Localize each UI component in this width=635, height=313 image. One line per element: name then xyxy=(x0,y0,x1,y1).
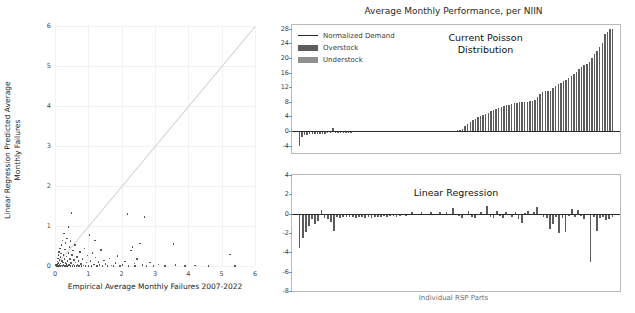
scatter-point xyxy=(142,264,144,266)
scatter-point xyxy=(102,265,104,267)
bar xyxy=(527,102,528,131)
bar xyxy=(589,62,590,131)
scatter-point xyxy=(70,262,72,264)
scatter-point xyxy=(130,250,132,252)
bar xyxy=(612,29,613,131)
scatter-point xyxy=(88,265,90,267)
legend-item-overstock[interactable]: Overstock xyxy=(298,42,395,53)
scatter-y-tick: 3 xyxy=(37,142,51,150)
bar xyxy=(508,105,509,131)
bar xyxy=(472,120,473,131)
scatter-point xyxy=(74,244,76,246)
bar xyxy=(568,78,569,131)
tick-mark xyxy=(289,272,292,273)
bar xyxy=(586,64,587,131)
legend-item-normalized-demand[interactable]: Normalized Demand xyxy=(298,30,395,41)
bar xyxy=(524,102,525,131)
scatter-point xyxy=(86,262,88,264)
scatter-point xyxy=(103,260,105,262)
scatter-point xyxy=(73,259,75,261)
bar xyxy=(330,214,332,222)
scatter-point xyxy=(184,265,186,267)
bar xyxy=(545,91,546,131)
scatter-point xyxy=(64,249,66,251)
legend-label: Understock xyxy=(323,56,363,64)
bar xyxy=(534,100,535,131)
bar xyxy=(552,214,554,225)
tick-mark xyxy=(289,252,292,253)
scatter-point xyxy=(132,246,134,248)
bar xyxy=(470,122,471,131)
bar xyxy=(511,104,512,131)
bar xyxy=(475,119,476,131)
scatter-point xyxy=(164,265,166,267)
bar xyxy=(308,214,310,226)
scatter-point xyxy=(208,265,210,267)
normalized-demand-line xyxy=(292,214,620,215)
top-bar-panel[interactable]: Normalized Demand Overstock Understock C… xyxy=(291,24,621,154)
scatter-plot-area[interactable] xyxy=(55,26,255,266)
bar xyxy=(560,83,561,131)
scatter-point xyxy=(89,234,91,236)
bar xyxy=(519,102,520,131)
legend-label: Normalized Demand xyxy=(323,32,395,40)
legend: Normalized Demand Overstock Understock xyxy=(298,30,395,66)
scatter-point xyxy=(61,244,63,246)
scatter-point xyxy=(119,265,121,267)
scatter-point xyxy=(78,260,80,262)
tick-mark xyxy=(289,214,292,215)
tick-mark xyxy=(289,146,292,147)
scatter-point xyxy=(79,251,81,253)
bar xyxy=(547,91,548,131)
legend-label: Overstock xyxy=(323,44,358,52)
scatter-point xyxy=(115,262,117,264)
bar xyxy=(565,214,567,232)
bar xyxy=(571,76,572,131)
scatter-point xyxy=(70,240,72,242)
scatter-point xyxy=(128,265,130,267)
bar xyxy=(488,113,489,131)
scatter-point xyxy=(70,265,72,267)
bar xyxy=(314,214,316,224)
bar xyxy=(482,115,483,131)
scatter-point xyxy=(158,264,160,266)
bottom-bar-panel[interactable]: Linear Regression -8-6-4-2024 xyxy=(291,174,621,292)
scatter-y-axis-label: Linear Regression Predicted Average Mont… xyxy=(3,75,23,225)
grid-line xyxy=(55,66,255,67)
bar-x-axis-label: Individual RSP Parts xyxy=(272,294,635,302)
bar xyxy=(529,101,530,131)
bar xyxy=(552,88,553,131)
bar-y-tick: 12 xyxy=(281,83,289,91)
bar xyxy=(305,214,307,232)
bar xyxy=(539,94,540,131)
tick-mark xyxy=(289,73,292,74)
bar xyxy=(299,214,301,248)
scatter-point xyxy=(153,265,155,267)
grid-line xyxy=(55,226,255,227)
scatter-point xyxy=(149,262,151,264)
tick-mark xyxy=(289,43,292,44)
bar xyxy=(558,214,560,233)
scatter-point xyxy=(82,258,84,260)
scatter-x-axis-label: Empirical Average Monthly Failures 2007-… xyxy=(55,282,255,292)
bar xyxy=(581,67,582,131)
bar xyxy=(594,54,595,131)
scatter-y-tick: 1 xyxy=(37,222,51,230)
scatter-point xyxy=(66,256,68,258)
tick-mark xyxy=(289,291,292,292)
bar xyxy=(573,74,574,131)
bar xyxy=(467,124,468,131)
bar xyxy=(532,101,533,131)
bar xyxy=(521,214,523,223)
bar xyxy=(542,92,543,131)
bottom-panel-annotation: Linear Regression xyxy=(358,187,555,199)
scatter-point xyxy=(90,260,92,262)
tick-mark xyxy=(289,58,292,59)
scatter-point xyxy=(122,264,124,266)
scatter-point xyxy=(234,265,236,267)
normalized-demand-line xyxy=(292,131,620,132)
scatter-point xyxy=(72,265,74,267)
legend-item-understock[interactable]: Understock xyxy=(298,54,395,65)
scatter-point xyxy=(60,256,62,258)
bar-y-tick: 20 xyxy=(281,54,289,62)
